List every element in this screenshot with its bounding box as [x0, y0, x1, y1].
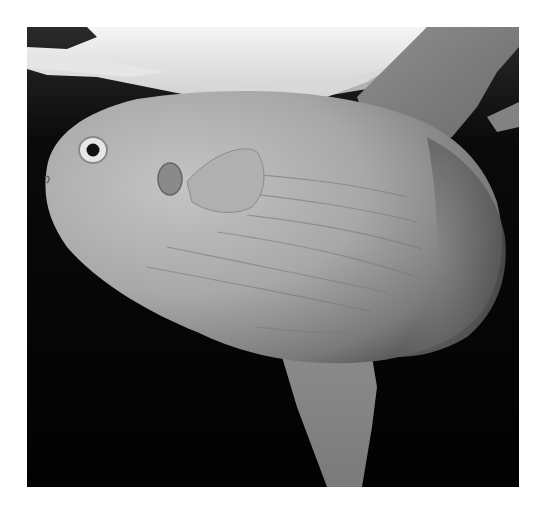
eye-pupil: [87, 144, 100, 157]
sunfish-illustration: [27, 27, 519, 487]
sunfish-photo: Black-and-white underwater photograph of…: [27, 27, 519, 487]
gill-opening: [158, 163, 182, 195]
eye: [79, 137, 107, 163]
